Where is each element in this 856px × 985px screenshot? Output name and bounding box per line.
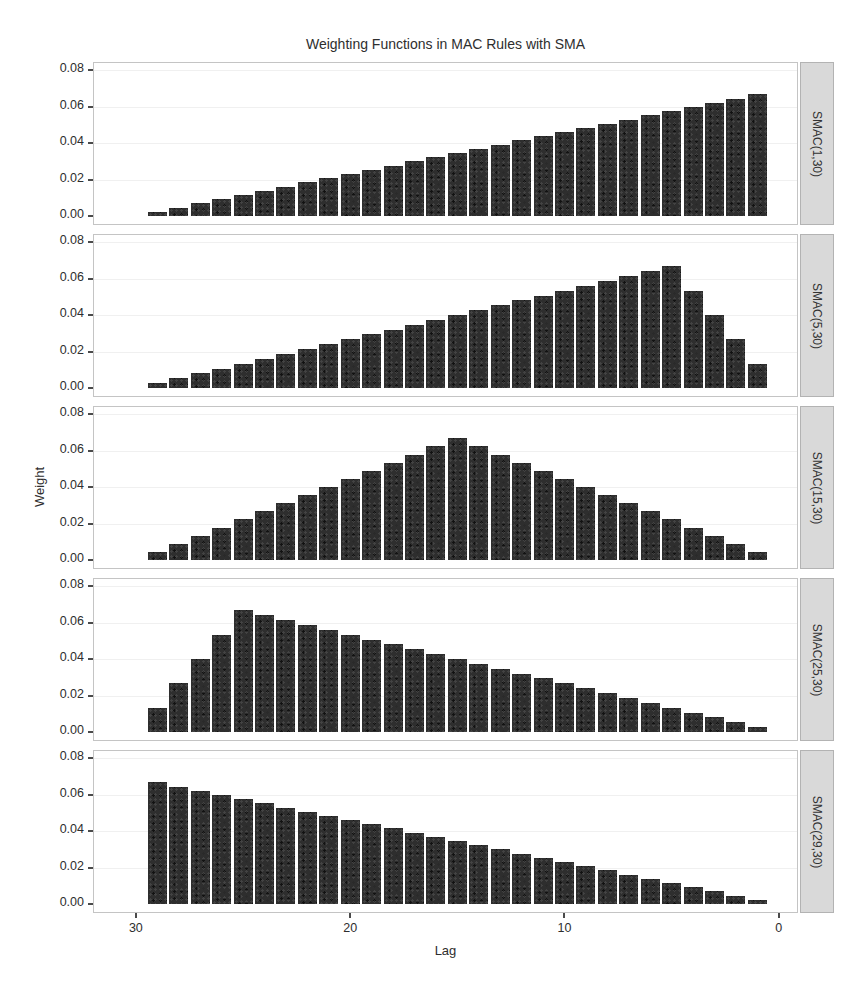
bar <box>169 544 188 560</box>
bar <box>619 276 638 388</box>
x-tick-label: 10 <box>544 921 584 935</box>
y-tick-mark <box>88 314 93 316</box>
bar <box>576 286 595 388</box>
facet-strip-label: SMAC(15,30) <box>810 451 824 524</box>
bar <box>191 791 210 904</box>
y-tick-label: 0.08 <box>38 749 84 763</box>
bar <box>276 187 295 216</box>
y-tick-mark <box>88 450 93 452</box>
bar <box>426 446 445 560</box>
y-tick-mark <box>88 830 93 832</box>
bar <box>576 128 595 216</box>
x-axis-title: Lag <box>93 943 798 958</box>
gridline <box>94 279 797 280</box>
bar <box>384 463 403 560</box>
bar <box>169 683 188 732</box>
bar <box>705 103 724 216</box>
bar <box>641 879 660 904</box>
bar <box>684 107 703 216</box>
bar <box>684 713 703 732</box>
y-tick-label: 0.04 <box>38 650 84 664</box>
plot-panel <box>93 406 798 569</box>
bar <box>491 145 510 216</box>
bar <box>705 315 724 388</box>
facet-row: 0.080.060.040.020.00SMAC(5,30) <box>0 234 856 397</box>
bar <box>448 315 467 388</box>
y-tick-mark <box>88 351 93 353</box>
bar <box>148 212 167 216</box>
y-tick-mark <box>88 215 93 217</box>
bar <box>148 552 167 560</box>
bar <box>169 208 188 216</box>
bar <box>405 649 424 732</box>
bar <box>234 195 253 216</box>
bar <box>212 369 231 388</box>
y-tick-label: 0.02 <box>38 343 84 357</box>
plot-panel <box>93 62 798 225</box>
bar <box>362 824 381 904</box>
y-tick-label: 0.00 <box>38 207 84 221</box>
bar <box>448 841 467 904</box>
bar <box>405 161 424 216</box>
bar <box>641 703 660 732</box>
facet-strip: SMAC(29,30) <box>800 750 834 913</box>
bar <box>384 644 403 732</box>
bar <box>362 471 381 560</box>
bar <box>405 455 424 560</box>
bar <box>319 487 338 560</box>
bar <box>341 820 360 904</box>
bar <box>619 875 638 904</box>
chart-title: Weighting Functions in MAC Rules with SM… <box>93 36 798 52</box>
y-tick-label: 0.02 <box>38 171 84 185</box>
bar <box>598 124 617 216</box>
plot-panel <box>93 578 798 741</box>
bar <box>148 708 167 732</box>
y-tick-label: 0.06 <box>38 786 84 800</box>
x-axis: Lag 3020100 <box>0 913 856 975</box>
y-tick-mark <box>88 695 93 697</box>
y-tick-label: 0.02 <box>38 859 84 873</box>
bar <box>705 717 724 732</box>
bar <box>555 132 574 216</box>
bar <box>448 153 467 216</box>
bar <box>705 891 724 904</box>
bar <box>598 870 617 904</box>
bar <box>619 120 638 216</box>
y-tick-label: 0.06 <box>38 442 84 456</box>
bar <box>512 674 531 732</box>
bar <box>512 854 531 904</box>
bar <box>748 94 767 216</box>
gridline <box>94 414 797 415</box>
bar <box>684 528 703 560</box>
bar <box>662 266 681 388</box>
bar <box>555 862 574 904</box>
bar <box>491 669 510 732</box>
bar <box>148 383 167 388</box>
facet-strip: SMAC(15,30) <box>800 406 834 569</box>
x-tick-mark <box>135 913 137 918</box>
bar <box>641 511 660 560</box>
gridline <box>94 451 797 452</box>
y-tick-label: 0.04 <box>38 478 84 492</box>
bar <box>191 203 210 216</box>
bar <box>255 359 274 388</box>
bar <box>555 479 574 560</box>
bar <box>169 787 188 904</box>
y-tick-label: 0.00 <box>38 551 84 565</box>
bar <box>491 305 510 388</box>
bar <box>255 191 274 216</box>
bar <box>234 364 253 388</box>
bar <box>212 795 231 904</box>
bar <box>598 281 617 388</box>
bar <box>662 883 681 904</box>
y-tick-mark <box>88 69 93 71</box>
bar <box>748 364 767 388</box>
bar <box>298 812 317 904</box>
gridline <box>94 487 797 488</box>
bar <box>234 519 253 560</box>
gridline <box>94 586 797 587</box>
bar <box>576 487 595 560</box>
bar <box>276 808 295 904</box>
bar <box>748 727 767 732</box>
bar <box>319 630 338 732</box>
